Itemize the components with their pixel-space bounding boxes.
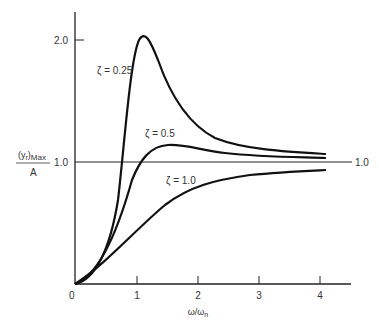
x-tick-label-1: 1 bbox=[134, 290, 140, 301]
x-tick-label-4: 4 bbox=[317, 290, 323, 301]
label-zeta-0.5: ζ = 0.5 bbox=[145, 128, 175, 140]
label-zeta-1.0: ζ = 1.0 bbox=[166, 175, 196, 187]
x-axis-label: ω/ωn bbox=[188, 307, 209, 318]
y-tick-label-1: 1.0 bbox=[54, 157, 68, 168]
label-zeta-0.25: ζ = 0.25 bbox=[97, 65, 133, 77]
y-tick-label-2: 2.0 bbox=[54, 35, 68, 46]
x-tick-label-3: 3 bbox=[256, 290, 262, 301]
y-axis-label: (yr)Max A bbox=[16, 150, 50, 178]
x-tick-label-0: 0 bbox=[69, 290, 75, 301]
x-tick-label-2: 2 bbox=[195, 290, 201, 301]
response-chart: 2.0 1.0 1.0 0 1 2 3 4 ω/ωn (yr)Max A ζ =… bbox=[0, 0, 379, 331]
reference-line-label: 1.0 bbox=[355, 157, 369, 168]
svg-text:A: A bbox=[30, 167, 37, 178]
svg-text:(yr)Max: (yr)Max bbox=[18, 150, 46, 162]
curve-zeta-0.5 bbox=[75, 145, 326, 284]
